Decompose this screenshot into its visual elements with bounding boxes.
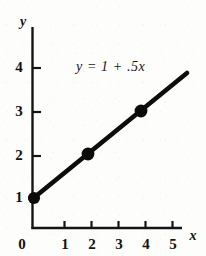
y-axis-ticks [33, 68, 42, 156]
x-axis-label: x [186, 229, 200, 243]
equation-annotation: y = 1 + .5x [76, 59, 145, 75]
data-point-0-1 [28, 192, 40, 204]
y-tick-label-4: 4 [12, 60, 26, 75]
plot-canvas [0, 0, 206, 256]
x-tick-label-5: 5 [166, 237, 180, 252]
x-tick-label-0: 0 [15, 237, 29, 252]
y-tick-label-1: 1 [12, 190, 26, 205]
y-axis-label: y [16, 15, 30, 29]
data-point-4-3 [135, 105, 148, 118]
x-tick-label-2: 2 [85, 237, 99, 252]
y-tick-label-2: 2 [12, 148, 26, 163]
y-tick-label-3: 3 [12, 104, 26, 119]
data-point-2-2 [82, 148, 95, 161]
regression-line [33, 73, 187, 199]
x-tick-label-1: 1 [58, 237, 72, 252]
x-tick-label-4: 4 [139, 237, 153, 252]
linear-function-figure: 4 3 2 1 0 1 2 3 4 5 y x y = 1 + .5x [0, 0, 206, 256]
x-tick-label-3: 3 [112, 237, 126, 252]
